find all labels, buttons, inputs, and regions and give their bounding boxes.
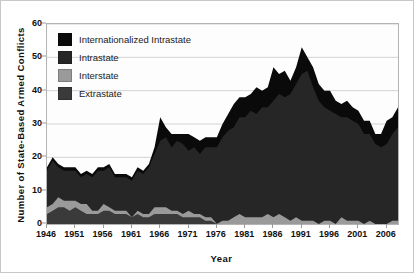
legend-swatch-icon [58,87,72,100]
x-axis-title: Year [46,253,397,264]
chart-figure: Number of State-Based Armed Conflicts Ye… [0,0,414,273]
legend-item: Interstate [58,68,191,82]
legend-swatch-icon [58,51,72,64]
x-tick-mark [159,224,160,228]
legend-item-label: Internationalized Intrastate [79,34,191,45]
legend-item-label: Intrastate [79,52,119,63]
legend-item: Intrastate [58,50,191,64]
x-tick-mark [74,224,75,228]
x-tick-mark [216,224,217,228]
y-tick-label: 60 [4,18,42,28]
legend-item-label: Interstate [79,70,119,81]
x-tick-label: 2006 [363,229,409,239]
x-tick-mark [329,224,330,228]
y-tick-label: 10 [4,185,42,195]
legend-item-label: Extrastate [79,88,122,99]
x-tick-mark [244,224,245,228]
x-tick-mark [103,224,104,228]
x-tick-mark [188,224,189,228]
x-tick-mark [46,224,47,228]
x-tick-mark [131,224,132,228]
legend-item: Extrastate [58,86,191,100]
x-tick-mark [386,224,387,228]
legend-swatch-icon [58,69,72,82]
x-tick-mark [357,224,358,228]
chart-legend: Internationalized IntrastateIntrastateIn… [58,32,191,100]
legend-swatch-icon [58,33,72,46]
y-tick-label: 30 [4,118,42,128]
y-tick-label: 0 [4,218,42,228]
x-tick-mark [301,224,302,228]
y-tick-label: 40 [4,85,42,95]
x-tick-mark [272,224,273,228]
legend-item: Internationalized Intrastate [58,32,191,46]
y-tick-label: 50 [4,51,42,61]
y-tick-label: 20 [4,151,42,161]
